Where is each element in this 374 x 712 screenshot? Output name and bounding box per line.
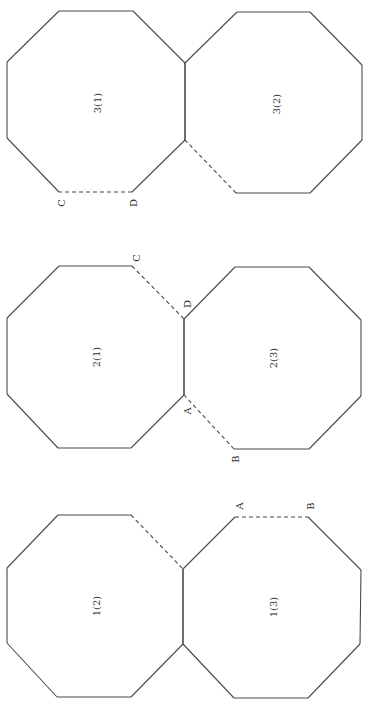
octagon-edge (308, 517, 361, 570)
octagon-edge (7, 266, 59, 318)
point-label-b: B (305, 502, 316, 509)
octagon-edge (183, 644, 234, 698)
octagon-edge (131, 644, 183, 697)
octagon-label: 3(1) (92, 93, 103, 114)
octagon-edge (7, 11, 59, 62)
octagon-edge (185, 12, 237, 63)
octagon-edge (7, 138, 59, 192)
octagon-edge (7, 394, 58, 448)
point-label-a: A (182, 407, 193, 416)
octagon-edge (184, 267, 235, 319)
octagon-2-1: 2(1) (7, 266, 184, 448)
group-2: 2(1)2(3)CDAB (7, 254, 361, 463)
octagon-label: 2(1) (91, 347, 102, 368)
octagon-net-diagram: 3(1)3(2)CD2(1)2(3)CDAB1(2)1(3)AB (0, 0, 374, 712)
octagon-edge (308, 644, 360, 698)
point-label-c: C (56, 199, 67, 207)
point-label-b: B (230, 455, 241, 462)
octagon-1-2: 1(2) (7, 515, 183, 697)
point-label-c: C (131, 254, 142, 262)
octagon-edge (360, 570, 361, 644)
octagon-1-3: 1(3) (183, 517, 361, 698)
group-3: 3(1)3(2)CD (7, 11, 362, 207)
octagon-3-1: 3(1) (7, 11, 185, 192)
dashed-fold-edge (185, 140, 236, 193)
octagon-label: 2(3) (268, 348, 279, 369)
octagon-edge (183, 517, 235, 569)
octagon-edge (132, 140, 185, 192)
group-1: 1(2)1(3)AB (7, 502, 361, 698)
octagon-edge (309, 267, 361, 320)
dashed-fold-edge (132, 266, 184, 319)
octagon-edge (131, 395, 184, 448)
point-label-a: A (234, 502, 245, 511)
octagon-2-3: 2(3) (184, 267, 361, 449)
octagon-edge (133, 11, 185, 63)
point-label-d: D (128, 199, 139, 207)
octagon-edge (310, 140, 362, 193)
octagon-label: 1(2) (91, 596, 102, 617)
dashed-fold-edge (131, 515, 183, 569)
octagon-3-2: 3(2) (185, 12, 362, 193)
octagon-edge (7, 515, 58, 568)
dashed-fold-edge (184, 395, 234, 449)
octagon-edge (7, 643, 57, 697)
octagon-edge (310, 12, 362, 65)
octagon-label: 3(2) (271, 94, 282, 115)
octagon-edge (309, 396, 361, 449)
octagon-label: 1(3) (268, 597, 279, 618)
point-label-d: D (182, 300, 193, 308)
